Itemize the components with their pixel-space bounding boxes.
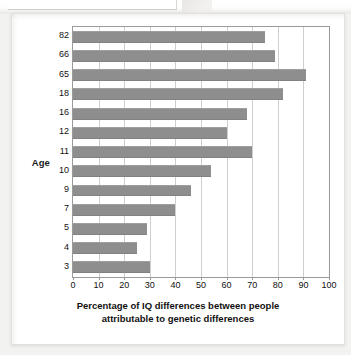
x-axis-tick-label: 30	[145, 280, 155, 290]
bar[interactable]	[73, 204, 175, 216]
bar-slot	[73, 85, 329, 104]
bar-slot	[73, 27, 329, 46]
y-axis-tick-label: 66	[48, 45, 70, 64]
bar-slot	[73, 239, 329, 258]
bar[interactable]	[73, 261, 150, 273]
bar-slot	[73, 123, 329, 142]
bar[interactable]	[73, 185, 191, 197]
y-axis-tick-label: 12	[48, 122, 70, 141]
x-axis-tick-label: 0	[70, 280, 75, 290]
y-axis-tick-label: 82	[48, 26, 70, 45]
bar[interactable]	[73, 223, 147, 235]
bar-slot	[73, 200, 329, 219]
bar-slot	[73, 258, 329, 277]
x-axis-tick-label: 80	[273, 280, 283, 290]
bar[interactable]	[73, 50, 275, 62]
bar-slot	[73, 104, 329, 123]
y-axis-tick-labels: 826665181612111097543	[48, 26, 70, 276]
bar-slot	[73, 142, 329, 161]
x-axis-tick-label: 20	[119, 280, 129, 290]
bars-layer	[73, 27, 329, 277]
bar-slot	[73, 46, 329, 65]
bar[interactable]	[73, 108, 247, 120]
y-axis-tick-label: 16	[48, 103, 70, 122]
y-axis-tick-label: 5	[48, 218, 70, 237]
x-axis-tick-label: 70	[247, 280, 257, 290]
y-axis-tick-label: 10	[48, 161, 70, 180]
scan-page-edge	[8, 0, 177, 10]
x-axis-title: Percentage of IQ differences between peo…	[36, 300, 320, 325]
figure-card: Age 826665181612111097543 01020304050607…	[11, 13, 345, 345]
scan-smudge	[182, 0, 212, 13]
y-axis-tick-label: 18	[48, 84, 70, 103]
y-axis-tick-label: 9	[48, 180, 70, 199]
y-axis-tick-label: 65	[48, 64, 70, 83]
x-axis-tick-label: 100	[321, 280, 336, 290]
bar[interactable]	[73, 31, 265, 43]
x-axis-tick-label: 50	[196, 280, 206, 290]
x-axis-tick-labels: 0102030405060708090100	[72, 280, 330, 294]
bar[interactable]	[73, 146, 252, 158]
x-axis-title-line-2: attributable to genetic differences	[36, 313, 320, 326]
y-axis-title: Age	[18, 157, 50, 168]
y-axis-tick-label: 7	[48, 199, 70, 218]
y-axis-tick-label: 11	[48, 141, 70, 160]
bar-slot	[73, 181, 329, 200]
x-axis-tick-label: 40	[170, 280, 180, 290]
y-axis-tick-label: 3	[48, 257, 70, 276]
bar-chart: Age 826665181612111097543 01020304050607…	[12, 14, 344, 344]
x-axis-tick-label: 90	[298, 280, 308, 290]
x-axis-title-line-1: Percentage of IQ differences between peo…	[77, 300, 280, 311]
x-axis-tick-label: 60	[222, 280, 232, 290]
bar[interactable]	[73, 165, 211, 177]
plot-area	[72, 26, 330, 278]
y-axis-tick-label: 4	[48, 238, 70, 257]
bar[interactable]	[73, 127, 227, 139]
bar[interactable]	[73, 69, 306, 81]
x-axis-tick-label: 10	[94, 280, 104, 290]
bar[interactable]	[73, 88, 283, 100]
bar-slot	[73, 219, 329, 238]
bar-slot	[73, 65, 329, 84]
bar[interactable]	[73, 242, 137, 254]
bar-slot	[73, 162, 329, 181]
